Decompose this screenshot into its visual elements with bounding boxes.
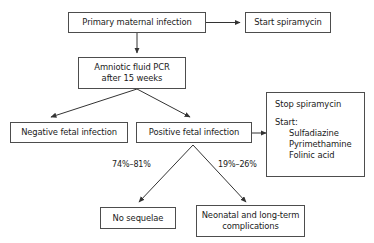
node-no-sequelae[interactable]: No sequelae bbox=[100, 207, 176, 229]
node-label: Start spiramycin bbox=[254, 17, 321, 28]
edge-pcr-to-positive bbox=[137, 89, 190, 117]
treatment-drug-pyrimethamine: Pyrimethamine bbox=[275, 139, 351, 150]
node-amniotic-fluid-pcr[interactable]: Amniotic fluid PCR after 15 weeks bbox=[78, 57, 186, 89]
treatment-stop-label: Stop spiramycin bbox=[275, 99, 341, 110]
node-label-line2: complications bbox=[222, 221, 279, 232]
edge-label-right-branch: 19%–26% bbox=[218, 160, 257, 169]
node-neonatal-complications[interactable]: Neonatal and long-term complications bbox=[196, 205, 305, 237]
edge-positive-to-no-sequelae bbox=[139, 145, 193, 202]
node-start-spiramycin[interactable]: Start spiramycin bbox=[245, 12, 331, 33]
node-label-line2: after 15 weeks bbox=[102, 73, 163, 84]
treatment-start-label: Start: bbox=[275, 117, 298, 128]
edge-pcr-to-negative bbox=[51, 89, 137, 117]
node-primary-maternal-infection[interactable]: Primary maternal infection bbox=[68, 12, 206, 33]
node-label: Negative fetal infection bbox=[21, 127, 117, 138]
treatment-drug-sulfadiazine: Sulfadiazine bbox=[275, 128, 339, 139]
node-positive-fetal-infection[interactable]: Positive fetal infection bbox=[136, 122, 252, 143]
edge-label-left-branch: 74%–81% bbox=[112, 160, 151, 169]
node-label: No sequelae bbox=[113, 213, 164, 224]
node-label: Primary maternal infection bbox=[82, 17, 191, 28]
edge-positive-to-complications bbox=[193, 145, 246, 202]
flowchart-canvas: Primary maternal infection Start spiramy… bbox=[0, 0, 374, 243]
node-label-line1: Amniotic fluid PCR bbox=[94, 62, 169, 73]
treatment-drug-folinic-acid: Folinic acid bbox=[275, 150, 334, 161]
node-negative-fetal-infection[interactable]: Negative fetal infection bbox=[10, 122, 128, 143]
node-label-line1: Neonatal and long-term bbox=[202, 210, 300, 221]
node-label: Positive fetal infection bbox=[149, 127, 239, 138]
node-treatment-regimen[interactable]: Stop spiramycin Start: Sulfadiazine Pyri… bbox=[266, 92, 365, 177]
